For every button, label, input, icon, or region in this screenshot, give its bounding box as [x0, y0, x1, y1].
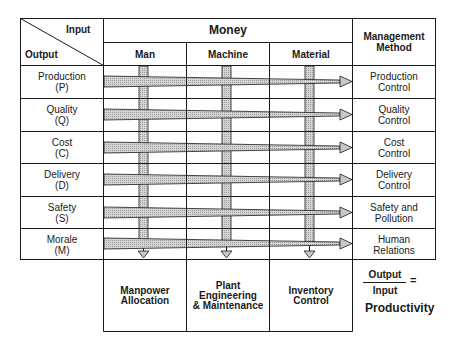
method-production-control: ProductionControl — [353, 66, 435, 98]
method-line: Production — [370, 71, 418, 82]
output-quality: Quality(Q) — [21, 99, 103, 131]
output-name: Cost — [52, 137, 73, 148]
method-quality-control: QualityControl — [353, 99, 435, 131]
output-code: (S) — [55, 213, 68, 224]
method-line: Control — [378, 148, 410, 159]
output-safety: Safety(S) — [21, 197, 103, 228]
output-production: Production(P) — [21, 66, 103, 98]
box-line: Allocation — [121, 296, 169, 306]
output-code: (D) — [55, 180, 69, 191]
inventory-control-box: InventoryControl — [270, 261, 352, 331]
method-line: Control — [378, 82, 410, 93]
plant-engineering-box: PlantEngineering& Maintenance — [187, 261, 269, 331]
output-code: (C) — [55, 148, 69, 159]
manpower-allocation-box: ManpowerAllocation — [104, 261, 186, 331]
corner-output-label: Output — [25, 49, 58, 60]
input-machine-header: Machine — [187, 43, 269, 65]
formula-equals: = — [410, 274, 416, 286]
output-name: Morale — [47, 234, 78, 245]
box-line: Control — [293, 296, 329, 306]
output-name: Delivery — [44, 169, 80, 180]
output-name: Production — [38, 71, 86, 82]
method-human-relations: HumanRelations — [353, 229, 435, 260]
input-man-header: Man — [104, 43, 186, 65]
method-safety-pollution: Safety andPollution — [353, 197, 435, 228]
method-line: Delivery — [376, 169, 412, 180]
vertical-input-bars — [138, 66, 315, 258]
method-line: Pollution — [375, 213, 413, 224]
corner-input-label: Input — [66, 24, 90, 35]
method-cost-control: CostControl — [353, 132, 435, 163]
output-name: Safety — [48, 202, 76, 213]
money-header: Money — [104, 19, 352, 42]
formula-denominator: Input — [364, 285, 406, 296]
output-delivery: Delivery(D) — [21, 164, 103, 196]
output-cost: Cost(C) — [21, 132, 103, 163]
method-line: Quality — [378, 104, 409, 115]
output-code: (P) — [55, 82, 68, 93]
management-method-header: Management Method — [353, 19, 435, 65]
productivity-label: Productivity — [365, 301, 434, 315]
output-morale: Morale(M) — [21, 229, 103, 260]
method-line: Human — [378, 234, 410, 245]
input-material-header: Material — [270, 43, 352, 65]
method-line: Cost — [384, 137, 405, 148]
formula-numerator: Output — [364, 269, 406, 280]
method-line: Control — [378, 115, 410, 126]
output-code: (M) — [55, 245, 70, 256]
method-delivery-control: DeliveryControl — [353, 164, 435, 196]
output-name: Quality — [46, 104, 77, 115]
box-line: & Maintenance — [193, 301, 264, 311]
method-line: Safety and — [370, 202, 418, 213]
method-line: Relations — [373, 245, 415, 256]
output-code: (Q) — [55, 115, 69, 126]
method-line: Control — [378, 180, 410, 191]
